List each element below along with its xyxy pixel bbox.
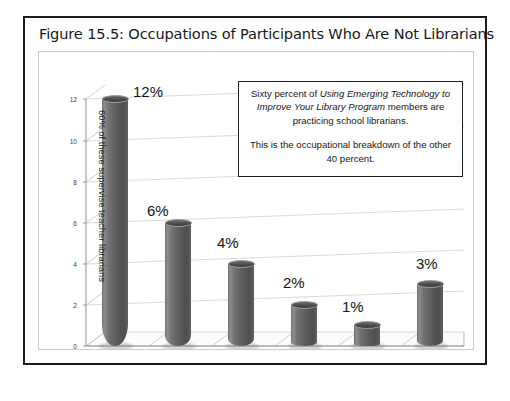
bar-top-cap: [228, 260, 255, 268]
y-axis-tick-0: 0: [61, 343, 77, 350]
bar-body: [165, 223, 191, 347]
data-label-corporate: 3%: [416, 255, 456, 272]
y-axis-tick-12: 12: [61, 96, 77, 103]
bar-top-cap: [165, 219, 192, 227]
bar-top-cap: [102, 95, 129, 103]
bar-body: [228, 264, 254, 346]
bar-top-cap: [291, 301, 318, 309]
y-axis-tick-6: 6: [61, 220, 77, 227]
annotation-line-4: This is the occupational breakdown of th…: [250, 139, 427, 150]
annotation-line-1-plain: Sixty percent of: [251, 88, 320, 99]
figure-frame: Figure 15.5: Occupations of Participants…: [23, 16, 487, 365]
y-axis-tick-8: 8: [61, 179, 77, 186]
annotation-line-1-italic: Using Emerging Technology: [320, 88, 440, 99]
annotation-textbox: Sixty percent of Using Emerging Technolo…: [238, 81, 463, 177]
annotation-line-1: Sixty percent of Using Emerging Technolo…: [251, 88, 439, 99]
bar-body: [291, 305, 317, 346]
bar-top-cap: [417, 280, 444, 288]
bar-ils-student: [354, 325, 380, 346]
y-axis-tick-4: 4: [61, 261, 77, 268]
data-label-teacher: 6%: [147, 202, 187, 219]
data-label-professor: 2%: [283, 274, 323, 291]
y-axis-tick-10: 10: [61, 138, 77, 145]
bar-corporate: [417, 284, 443, 346]
bar-support-staff: [228, 264, 254, 346]
bar-body: [417, 284, 443, 346]
bar-annotation-text: 60% of these supervise teacher librarian…: [97, 110, 108, 282]
page-title: Figure 15.5: Occupations of Participants…: [39, 25, 479, 42]
bar-teacher: [165, 223, 191, 347]
data-label-ils-student: 1%: [342, 298, 382, 315]
annotation-line-2-plain: members: [385, 101, 428, 112]
bar-professor: [291, 305, 317, 346]
data-label-instructional-leadership: 12%: [133, 83, 173, 100]
bar-annotation-label: 60% of these supervise teacher librarian…: [97, 110, 108, 282]
data-label-support-staff: 4%: [217, 234, 257, 251]
y-axis-tick-2: 2: [61, 302, 77, 309]
chart-container: 0 2 4 6 8 10 12: [38, 51, 474, 350]
annotation-spacer: [246, 127, 455, 138]
